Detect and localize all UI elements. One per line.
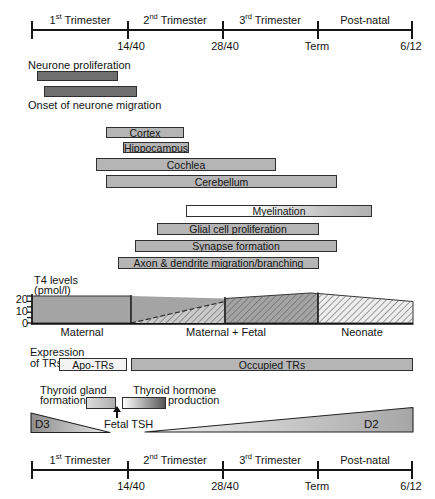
occupied-trs-bar: Occupied TRs [131, 358, 413, 371]
bar-hippocampus: Hippocampus [123, 142, 189, 153]
bar-glial-cell-proliferation: Glial cell proliferation [157, 223, 319, 235]
bar-cochlea: Cochlea [96, 158, 276, 171]
t4-section-maternal: Maternal [61, 326, 104, 338]
segment-name: Trimester [158, 454, 207, 466]
segment-name: Post-natal [340, 454, 390, 466]
bar-label-neurone-proliferation: Neurone proliferation [28, 59, 131, 71]
d3-label: D3 [35, 418, 50, 430]
timeline-tick [411, 461, 413, 479]
t4-section-maternal-fetal: Maternal + Fetal [186, 326, 266, 338]
ordinal-suffix: rd [245, 452, 252, 461]
timeline-milestone-28-40: 28/40 [211, 480, 239, 492]
tr-expression-label-line2: of TRs [30, 357, 62, 369]
development-bars: Neurone proliferationOnset of neurone mi… [0, 0, 435, 280]
timeline-bottom: 1st Trimester2nd Trimester3rd TrimesterP… [0, 440, 435, 496]
timeline-tick [222, 461, 224, 479]
timeline-tick [31, 461, 33, 479]
bar-cerebellum: Cerebellum [106, 175, 337, 188]
timeline-milestone-term: Term [305, 480, 329, 492]
apo-trs-bar: Apo-TRs [59, 358, 127, 371]
timeline-tick [127, 461, 129, 479]
bar-label-onset-of-neurone-migration: Onset of neurone migration [28, 99, 161, 111]
figure-root: 1st Trimester2nd Trimester3rd TrimesterP… [0, 0, 435, 499]
timeline-segment-label-4: Post-natal [340, 454, 390, 466]
segment-name: Trimester [252, 454, 301, 466]
bar-onset-of-neurone-migration [44, 86, 137, 97]
timeline-segment-label-3: 3rd Trimester [239, 454, 301, 466]
d2-label: D2 [364, 418, 379, 430]
bar-cortex: Cortex [106, 127, 184, 138]
deiodinase-wedges: D3 D2 [0, 404, 435, 437]
timeline-milestone-14-40: 14/40 [117, 480, 145, 492]
t4-maternal-area [32, 296, 131, 323]
bar-neurone-proliferation [37, 71, 118, 81]
bar-axon-dendrite-migration-branching: Axon & dendrite migration/branching [118, 257, 319, 269]
segment-name: Trimester [62, 454, 111, 466]
bar-myelination: Myelination [186, 205, 372, 217]
timeline-segment-label-2: 2nd Trimester [143, 454, 206, 466]
t4-section-neonate: Neonate [341, 326, 383, 338]
timeline-segment-label-1: 1st Trimester [50, 454, 111, 466]
bar-synapse-formation: Synapse formation [135, 240, 337, 252]
timeline-milestone-6-12: 6/12 [400, 480, 421, 492]
t4-neonate-hatch [318, 294, 413, 324]
timeline-tick [317, 461, 319, 479]
